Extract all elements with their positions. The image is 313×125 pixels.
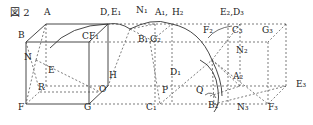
point-label-d3: D₃ [233,8,244,17]
point-label-c3: C₃ [232,26,243,35]
point-label-d: D, [100,8,110,17]
point-label-a2: A₂ [233,72,243,81]
point-label-f3: F₃ [268,103,278,112]
point-label-c: C [82,32,89,41]
point-label-f2: F₂ [203,26,213,35]
point-label-e: E [48,66,55,75]
point-label-f1: F₁ [89,32,99,41]
point-label-h2: H₂ [172,8,183,17]
geometry-diagram [0,0,313,125]
point-label-a: A [44,8,51,17]
point-label-r: R [38,83,45,92]
point-label-n3: N₃ [237,103,248,112]
point-label-q: Q [196,86,203,95]
point-label-n1: N₁ [136,6,147,15]
point-label-g: G [84,103,91,112]
point-label-g3: G₃ [262,26,273,35]
point-label-n: N [24,53,32,62]
point-label-h: H [109,71,117,80]
point-label-e3: E₃ [296,80,306,89]
point-label-e1: E₁ [111,8,121,17]
point-label-p: P [162,86,168,95]
point-label-b1: B₁ [138,35,148,44]
cube-front-face [26,42,89,104]
point-label-d1: D₁ [170,68,181,77]
point-label-b: B [18,31,25,40]
point-label-a1: A₁, [155,8,168,17]
point-label-b2: B₂ [208,101,218,110]
point-label-o: O [99,85,106,94]
point-label-c1: C₁ [146,103,157,112]
point-label-e2: E₂, [220,8,233,17]
point-label-f: F [18,103,24,112]
point-label-n2: N₂ [236,46,247,55]
point-label-g2: G₂ [150,35,161,44]
